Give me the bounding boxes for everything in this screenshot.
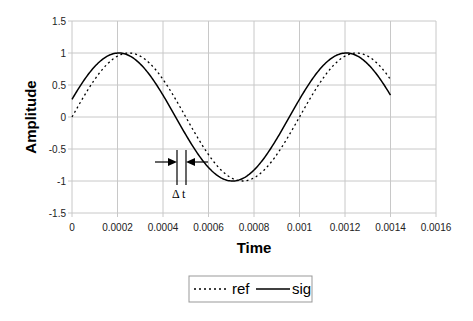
x-tick-label: 0.0004 [148, 222, 179, 233]
x-tick-label: 0.0016 [421, 222, 452, 233]
x-tick-label: 0.0006 [193, 222, 224, 233]
y-tick-labels: 1.510.50-0.5-1-1.5 [49, 16, 67, 219]
y-tick-label: 0 [60, 112, 66, 123]
y-tick-label: 1 [60, 48, 66, 59]
legend-ref-label: ref [232, 280, 250, 297]
x-tick-label: 0.001 [287, 222, 312, 233]
grid [68, 21, 436, 217]
chart: 1.510.50-0.5-1-1.5 00.00020.00040.00060.… [0, 0, 473, 321]
y-axis-title: Amplitude [22, 80, 39, 153]
delta-t-label: Δ t [172, 187, 186, 201]
y-tick-label: 1.5 [52, 16, 66, 27]
x-tick-label: 0 [69, 222, 75, 233]
x-tick-label: 0.0012 [330, 222, 361, 233]
x-tick-label: 0.0008 [239, 222, 270, 233]
legend-sig-label: sig [292, 280, 311, 297]
x-axis-title: Time [237, 239, 272, 256]
y-tick-label: -1.5 [49, 208, 67, 219]
x-tick-label: 0.0002 [102, 222, 133, 233]
y-tick-label: -0.5 [49, 144, 67, 155]
x-tick-label: 0.0014 [375, 222, 406, 233]
y-tick-label: -1 [57, 176, 66, 187]
legend: ref sig [189, 276, 312, 302]
x-tick-labels: 00.00020.00040.00060.00080.0010.00120.00… [69, 222, 452, 233]
y-tick-label: 0.5 [52, 80, 66, 91]
